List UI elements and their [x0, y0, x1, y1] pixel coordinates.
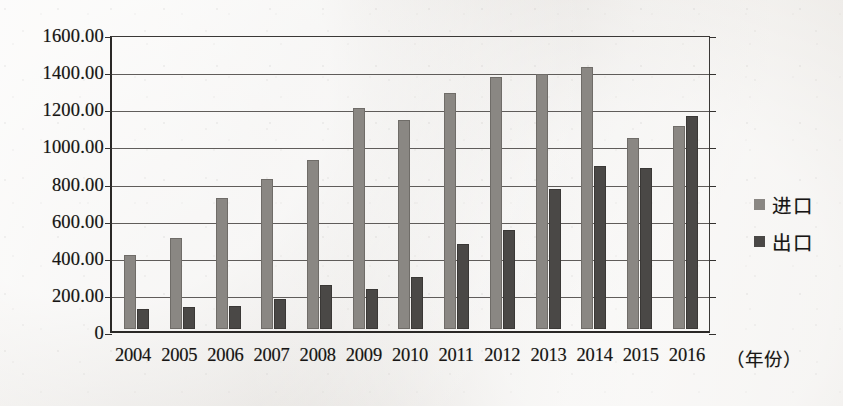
bar-import — [673, 126, 685, 329]
y-axis-tick-mark — [105, 111, 112, 112]
bar-groups — [114, 38, 708, 329]
bar-group — [160, 38, 206, 329]
bar-export — [229, 306, 241, 329]
bar-group — [114, 38, 160, 329]
y-axis-tick-label: 1200.00 — [0, 100, 104, 121]
bar-import — [307, 160, 319, 329]
x-axis-tick-label: 2008 — [295, 345, 341, 366]
y-axis-tick-mark — [709, 186, 716, 187]
bar-export — [137, 309, 149, 329]
bar-import — [490, 77, 502, 329]
x-axis-tick-label: 2010 — [387, 345, 433, 366]
bar-group — [297, 38, 343, 329]
bar-group — [434, 38, 480, 329]
legend-label: 出口 — [772, 227, 814, 256]
x-axis-tick-label: 2014 — [572, 345, 618, 366]
bar-import — [216, 198, 228, 329]
x-axis-tick-label: 2015 — [618, 345, 664, 366]
bar-export — [503, 230, 515, 329]
x-axis-tick-label: 2016 — [664, 345, 710, 366]
bar-export — [411, 277, 423, 329]
bar-import — [627, 138, 639, 329]
y-axis-tick-mark — [105, 74, 112, 75]
y-axis-tick-mark — [105, 260, 112, 261]
x-axis-tick-label: 2007 — [248, 345, 294, 366]
x-axis-tick-label: 2011 — [433, 345, 479, 366]
x-axis-tick-label: 2009 — [341, 345, 387, 366]
y-axis-tick-mark — [709, 297, 716, 298]
y-axis-tick-mark — [709, 148, 716, 149]
bar-import — [261, 179, 273, 329]
bar-group — [525, 38, 571, 329]
y-axis-tick-mark — [709, 74, 716, 75]
legend: 进口出口 — [754, 186, 814, 260]
x-axis-tick-label: 2005 — [156, 345, 202, 366]
y-axis-tick-mark — [709, 111, 716, 112]
bar-group — [342, 38, 388, 329]
x-axis-labels: 2004200520062007200820092010201120122013… — [110, 345, 710, 366]
y-axis-tick-mark — [105, 37, 112, 38]
bar-import — [581, 67, 593, 329]
bar-group — [480, 38, 526, 329]
y-axis-tick-label: 600.00 — [0, 211, 104, 232]
y-axis-tick-mark — [709, 37, 716, 38]
bar-group — [388, 38, 434, 329]
x-axis-tick-label: 2006 — [202, 345, 248, 366]
y-axis-tick-label: 400.00 — [0, 248, 104, 269]
y-axis-tick-mark — [105, 334, 112, 335]
legend-swatch-import-icon — [754, 199, 765, 210]
y-axis-tick-label: 200.00 — [0, 285, 104, 306]
y-axis-tick-label: 1000.00 — [0, 137, 104, 158]
y-axis-tick-label: 1600.00 — [0, 26, 104, 47]
y-axis-tick-mark — [105, 223, 112, 224]
bar-import — [398, 120, 410, 329]
bar-import — [536, 74, 548, 329]
legend-item: 进口 — [754, 186, 814, 223]
y-axis-tick-mark — [105, 186, 112, 187]
bar-import — [124, 255, 136, 329]
x-axis-tick-label: 2012 — [479, 345, 525, 366]
bar-export — [594, 166, 606, 329]
y-axis-tick-label: 800.00 — [0, 174, 104, 195]
legend-label: 进口 — [772, 190, 814, 219]
x-axis-tick-label: 2013 — [525, 345, 571, 366]
bar-import — [353, 108, 365, 329]
bar-export — [320, 285, 332, 329]
bar-export — [183, 307, 195, 329]
bar-group — [205, 38, 251, 329]
y-axis-tick-mark — [709, 223, 716, 224]
bar-export — [549, 189, 561, 329]
y-axis-tick-mark — [105, 148, 112, 149]
y-axis-tick-label: 1400.00 — [0, 63, 104, 84]
plot-area — [110, 36, 710, 333]
bar-import — [444, 93, 456, 329]
bar-group — [662, 38, 708, 329]
x-axis-note: （年份） — [726, 345, 802, 371]
chart-figure: 1600.001400.001200.001000.00800.00600.00… — [0, 0, 843, 406]
y-axis-labels: 1600.001400.001200.001000.00800.00600.00… — [0, 0, 104, 406]
bar-group — [617, 38, 663, 329]
bar-group — [571, 38, 617, 329]
x-axis-tick-label: 2004 — [110, 345, 156, 366]
y-axis-tick-mark — [709, 334, 716, 335]
bar-export — [640, 168, 652, 329]
bar-export — [457, 244, 469, 329]
y-axis-tick-mark — [105, 297, 112, 298]
bar-group — [251, 38, 297, 329]
bar-import — [170, 238, 182, 329]
bar-export — [274, 299, 286, 329]
legend-swatch-export-icon — [754, 236, 765, 247]
y-axis-tick-mark — [709, 260, 716, 261]
bar-export — [686, 116, 698, 329]
bar-export — [366, 289, 378, 329]
legend-item: 出口 — [754, 223, 814, 260]
y-axis-tick-label: 0 — [0, 323, 104, 344]
